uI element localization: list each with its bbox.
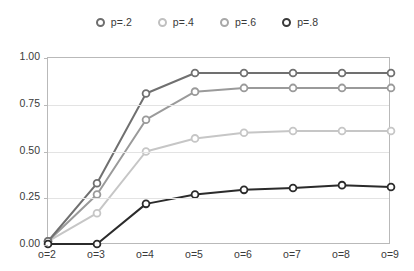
gridline bbox=[48, 198, 389, 199]
data-point-marker bbox=[241, 129, 248, 136]
y-axis-tick-label: 0.75 bbox=[2, 98, 40, 109]
data-point-marker bbox=[388, 128, 395, 135]
x-axis-tick-label: o=2 bbox=[27, 249, 67, 260]
line-chart: p=.2p=.4p=.6p=.8 0.000.250.500.751.00 o=… bbox=[0, 0, 414, 271]
y-axis-tick-label: 0.25 bbox=[2, 191, 40, 202]
data-point-marker bbox=[339, 70, 346, 77]
y-axis-tick bbox=[44, 152, 48, 153]
data-point-marker bbox=[241, 85, 248, 92]
y-axis-tick bbox=[44, 198, 48, 199]
data-point-marker bbox=[192, 88, 199, 95]
data-point-marker bbox=[290, 85, 297, 92]
data-point-marker bbox=[290, 70, 297, 77]
data-point-marker bbox=[241, 70, 248, 77]
x-axis-tick-label: o=9 bbox=[370, 249, 410, 260]
data-point-marker bbox=[388, 184, 395, 191]
series-p2 bbox=[45, 70, 395, 245]
series-line bbox=[48, 88, 391, 241]
x-axis-tick-label: o=4 bbox=[125, 249, 165, 260]
data-point-marker bbox=[143, 200, 150, 207]
data-point-marker bbox=[290, 185, 297, 192]
data-point-marker bbox=[94, 191, 101, 198]
y-axis-tick bbox=[44, 58, 48, 59]
data-point-marker bbox=[388, 85, 395, 92]
data-point-marker bbox=[339, 182, 346, 189]
data-point-marker bbox=[192, 135, 199, 142]
x-axis-tick-label: o=5 bbox=[174, 249, 214, 260]
data-point-marker bbox=[241, 186, 248, 193]
data-point-marker bbox=[339, 85, 346, 92]
x-axis-tick-label: o=7 bbox=[272, 249, 312, 260]
data-point-marker bbox=[192, 70, 199, 77]
data-point-marker bbox=[143, 90, 150, 97]
x-axis-tick-label: o=6 bbox=[223, 249, 263, 260]
series-p4 bbox=[45, 85, 395, 245]
y-axis-tick-label: 0.50 bbox=[2, 145, 40, 156]
data-point-marker bbox=[290, 128, 297, 135]
y-axis-tick-label: 1.00 bbox=[2, 51, 40, 62]
data-point-marker bbox=[339, 128, 346, 135]
data-point-marker bbox=[192, 191, 199, 198]
x-axis-tick-label: o=3 bbox=[76, 249, 116, 260]
data-point-marker bbox=[143, 116, 150, 123]
gridline bbox=[48, 152, 389, 153]
data-point-marker bbox=[388, 70, 395, 77]
x-axis-tick-label: o=8 bbox=[321, 249, 361, 260]
plot-area bbox=[47, 57, 390, 244]
data-point-marker bbox=[94, 180, 101, 187]
y-axis-tick bbox=[44, 245, 48, 246]
data-point-marker bbox=[94, 241, 101, 248]
gridline bbox=[48, 105, 389, 106]
y-axis-tick bbox=[44, 105, 48, 106]
y-axis-tick-label: 0.00 bbox=[2, 238, 40, 249]
x-axis-labels: o=2o=3o=4o=5o=6o=7o=8o=9 bbox=[47, 249, 390, 265]
data-point-marker bbox=[94, 210, 101, 217]
